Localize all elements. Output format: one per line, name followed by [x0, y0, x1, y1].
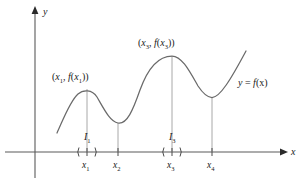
tick-label-x4-sub: 4 [211, 165, 214, 172]
function-curve [57, 51, 246, 133]
point-label-x1-sub1: 1 [60, 77, 63, 84]
tick-label-x1-sub: 1 [86, 165, 89, 172]
y-axis-label: y [43, 7, 47, 17]
tick-label-x3: x3 [167, 161, 174, 171]
tick-label-x4: x4 [207, 161, 214, 171]
interval-label-I1-sub: 1 [87, 137, 90, 144]
point-label-x3-close: )) [168, 37, 175, 48]
tick-label-x2: x2 [113, 161, 120, 171]
curve-equation-equals: = [242, 77, 253, 88]
x-axis-arrow-icon [280, 149, 288, 156]
point-label-x1: (x1, f(x1)) [52, 72, 89, 82]
x-axis-label: x [291, 147, 295, 157]
y-axis-arrow-icon [32, 6, 39, 14]
point-label-x3-sub2: 3 [165, 43, 168, 50]
point-label-x1-base2: x [74, 71, 78, 82]
function-graph-figure: y x x1 x2 x3 x4 I1 I3 (x1, f(x1)) (x3, f… [0, 0, 305, 184]
point-label-x3: (x3, f(x3)) [138, 38, 175, 48]
interval-label-I3-sub: 3 [172, 137, 175, 144]
tick-label-x2-sub: 2 [117, 165, 120, 172]
interval-label-I3: I3 [169, 132, 176, 142]
interval-label-I1: I1 [84, 132, 91, 142]
point-label-x1-sub2: 1 [79, 77, 82, 84]
point-label-x1-close: )) [82, 71, 89, 82]
point-label-x3-base2: x [160, 37, 164, 48]
tick-label-x1: x1 [82, 161, 89, 171]
curve-equation-label: y = f(x) [238, 78, 268, 88]
tick-label-x3-sub: 3 [171, 165, 174, 172]
curve-equation-arg: (x) [256, 77, 268, 88]
graph-canvas [0, 0, 305, 184]
point-label-x3-sub1: 3 [146, 43, 149, 50]
